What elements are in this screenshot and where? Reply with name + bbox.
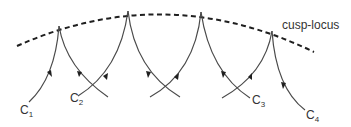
curve-c4-descending (272, 31, 305, 110)
cusp-locus-arc (17, 14, 314, 52)
curve-c1-descending (59, 26, 108, 97)
curve-c1-ascending (29, 26, 59, 102)
arrow-icon (146, 71, 151, 78)
label-c4: C4 (306, 108, 320, 124)
cusp-locus-label: cusp-locus (282, 18, 339, 32)
label-c3: C3 (252, 93, 266, 109)
curve-c2-descending (128, 11, 180, 97)
cusp-locus-diagram: C1 C2 C3 C4 cusp-locus (0, 0, 351, 127)
curve-c3-ascending (150, 12, 201, 97)
arrow-icon (174, 73, 179, 80)
curve-c4-ascending (222, 31, 272, 98)
label-c1: C1 (20, 103, 34, 119)
arrow-icon (248, 73, 252, 80)
